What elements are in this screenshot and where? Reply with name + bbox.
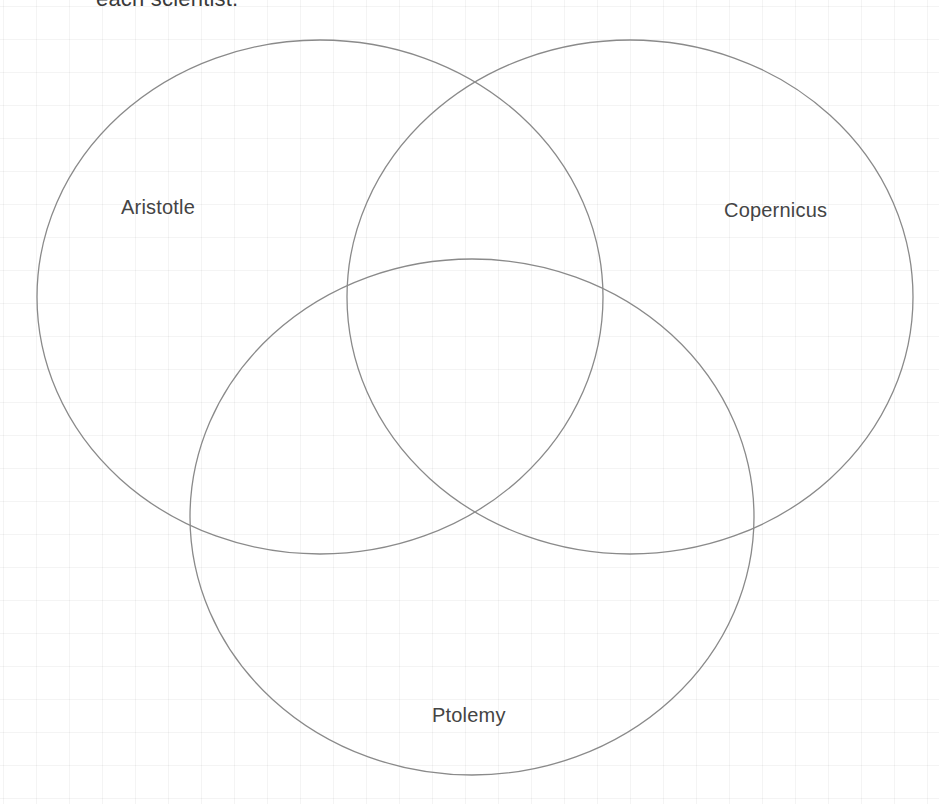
- set-label-ptolemy: Ptolemy: [432, 704, 506, 727]
- set-aristotle-circle: [37, 40, 603, 554]
- set-label-copernicus: Copernicus: [724, 199, 827, 222]
- set-label-aristotle: Aristotle: [121, 196, 195, 219]
- set-ptolemy-circle: [190, 259, 754, 775]
- set-copernicus-circle: [347, 40, 913, 554]
- venn-diagram: [0, 0, 939, 804]
